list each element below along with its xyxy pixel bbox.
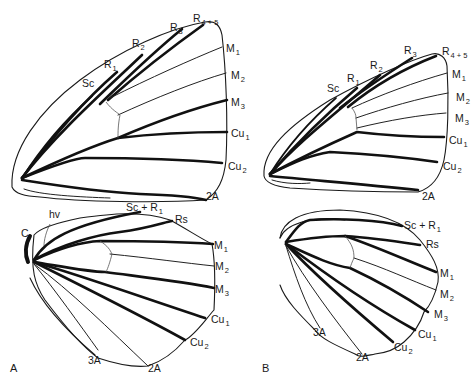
panel-a-hindwing xyxy=(26,212,215,366)
vein-label-a-hindwing-3a: 3A xyxy=(88,354,101,366)
vein-label-b-forewing-r3: R3 xyxy=(404,44,417,59)
vein-label-a-hindwing-cu1: Cu1 xyxy=(211,313,230,328)
vein-label-a-forewing-2a: 2A xyxy=(206,190,219,202)
vein-label-a-hindwing-c: C xyxy=(21,227,29,239)
vein-label-a-forewing-cu1: Cu1 xyxy=(231,127,250,142)
vein-label-b-hindwing-2a: 2A xyxy=(356,351,369,363)
vein-rs-b xyxy=(286,236,420,245)
vein-label-a-forewing-m3: M3 xyxy=(231,96,245,111)
vein-2a-a xyxy=(22,180,206,200)
vein-label-a-forewing-r2: R2 xyxy=(132,37,145,52)
vein-label-b-forewing-m3: M3 xyxy=(455,112,469,127)
vein-m1-ha xyxy=(34,241,213,260)
vein-label-b-forewing-2a: 2A xyxy=(422,190,435,202)
forewing-a-outline xyxy=(12,22,227,202)
vein-m1-a xyxy=(110,47,222,98)
vein-m3-b xyxy=(357,113,446,128)
vein-label-a-forewing-r1: R1 xyxy=(104,58,117,73)
vein-labels: ScR1R2R3R4 + 5M1M2M3Cu1Cu22AChvSc + R1Rs… xyxy=(21,12,470,374)
vein-label-b-forewing-m1: M1 xyxy=(452,68,466,83)
panel-b-hindwing xyxy=(280,210,438,356)
vein-label-b-hindwing-m3: M3 xyxy=(434,308,448,323)
vein-label-a-forewing-m1: M1 xyxy=(226,42,240,57)
vein-label-b-forewing-sc: Sc xyxy=(327,82,339,94)
vein-cu1-ha xyxy=(34,262,205,318)
discal-crossvein-b xyxy=(352,108,357,130)
vein-label-b-hindwing-m2: M2 xyxy=(440,288,454,303)
hindwing-a-inner-fold xyxy=(30,278,95,355)
vein-label-b-forewing-cu1: Cu1 xyxy=(449,134,468,149)
vein-r45-a xyxy=(108,25,203,100)
vein-label-a-hindwing-rs: Rs xyxy=(175,213,188,225)
vein-cu2-a xyxy=(22,158,222,178)
discal-crossvein-hb xyxy=(345,236,354,268)
forewing-b-outline xyxy=(264,54,448,192)
discal-crossvein-a xyxy=(106,102,120,138)
vein-m1-b xyxy=(352,73,447,108)
vein-label-a-forewing-m2: M2 xyxy=(231,69,245,84)
panel-label-b: B xyxy=(262,362,269,374)
panel-labels: AB xyxy=(10,362,269,374)
vein-label-b-forewing-r2: R2 xyxy=(370,59,383,74)
vein-label-a-hindwing-2a: 2A xyxy=(148,362,161,374)
wing-venation-figure: ScR1R2R3R4 + 5M1M2M3Cu1Cu22AChvSc + R1Rs… xyxy=(0,0,473,379)
humeral-costa-a xyxy=(26,236,30,262)
vein-label-a-hindwing-m3: M3 xyxy=(215,283,229,298)
vein-label-b-hindwing-cu2: Cu2 xyxy=(394,341,413,356)
vein-label-a-forewing-sc: Sc xyxy=(82,77,94,89)
vein-label-b-hindwing-cu1: Cu1 xyxy=(418,328,437,343)
vein-label-a-hindwing-m1: M1 xyxy=(214,239,228,254)
vein-label-a-hindwing-m2: M2 xyxy=(215,260,229,275)
vein-m2-ha xyxy=(110,254,214,266)
vein-label-a-forewing-r45: R4 + 5 xyxy=(193,12,218,27)
vein-label-b-forewing-r1: R1 xyxy=(347,72,360,87)
vein-label-b-hindwing-m1: M1 xyxy=(440,267,454,282)
vein-label-a-hindwing-hv: hv xyxy=(49,208,61,220)
hindwing-b-outline xyxy=(280,210,438,356)
vein-label-b-hindwing-3a: 3A xyxy=(313,326,326,338)
panel-label-a: A xyxy=(10,362,18,374)
vein-cu2-b xyxy=(270,152,437,174)
vein-label-b-forewing-r45: R4 + 5 xyxy=(442,45,467,60)
panel-b-forewing xyxy=(264,54,448,192)
vein-m2-hb xyxy=(354,258,436,290)
vein-label-b-forewing-m2: M2 xyxy=(456,91,470,106)
vein-label-a-hindwing-cu2: Cu2 xyxy=(190,336,209,351)
panel-a-forewing xyxy=(12,22,227,202)
discal-crossvein-ha xyxy=(100,241,112,272)
vein-label-b-hindwing-scr1: Sc + R1 xyxy=(404,219,441,234)
vein-label-b-hindwing-rs: Rs xyxy=(426,238,439,250)
vein-label-a-forewing-cu2: Cu2 xyxy=(228,160,247,175)
vein-r45-b xyxy=(348,56,436,107)
vein-label-b-forewing-cu2: Cu2 xyxy=(443,160,462,175)
